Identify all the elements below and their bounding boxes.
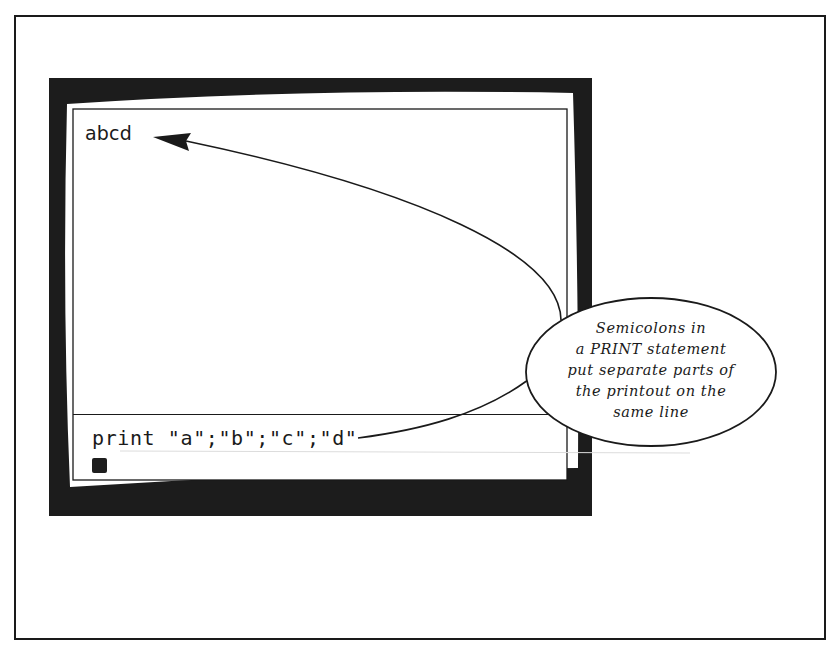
print-command-line: print "a";"b";"c";"d" xyxy=(92,425,357,451)
callout-line: put separate parts of xyxy=(526,360,776,381)
callout-line: the printout on the xyxy=(526,381,776,402)
block-cursor-icon xyxy=(92,458,107,473)
figure: abcd print "a";"b";"c";"d" Semicolons in… xyxy=(0,0,838,651)
screen-output-text: abcd xyxy=(85,121,132,145)
callout-line: a PRINT statement xyxy=(526,339,776,360)
callout-text: Semicolons in a PRINT statement put sepa… xyxy=(526,318,776,423)
callout-line: Semicolons in xyxy=(526,318,776,339)
callout-line: same line xyxy=(526,402,776,423)
